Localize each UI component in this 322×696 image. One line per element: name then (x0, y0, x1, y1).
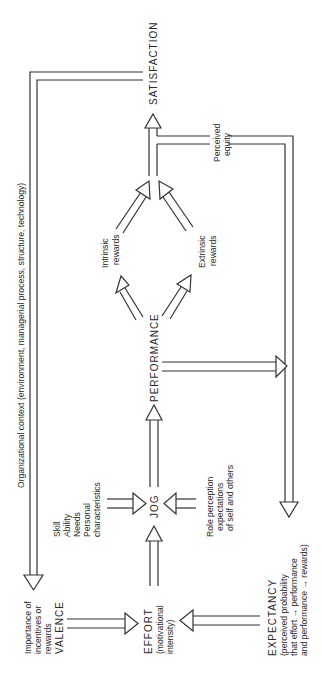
extrinsic-to-satisfaction-arrow (159, 181, 193, 231)
effort-node: EFFORT (motivational intensity) (143, 605, 175, 654)
job-node: JOG (149, 494, 160, 518)
performance-to-expectancy-arrow (162, 356, 287, 377)
effort-line1: (motivational (155, 605, 165, 654)
context-label: Organizational context (environment, man… (16, 183, 26, 488)
abilities-label: Skill Ability Needs Personal characteris… (52, 482, 102, 537)
rewards-to-satisfaction-arrow (145, 114, 161, 176)
intrinsic-to-satisfaction-arrow (116, 181, 150, 233)
intrinsic-rewards-label: Intrinsic rewards (100, 234, 121, 268)
role-line2: expectations (215, 483, 225, 531)
performance-node: PERFORMANCE (149, 313, 160, 402)
expectancy-line2: that effort → performance (289, 558, 299, 656)
equity-line2: equity (222, 132, 232, 156)
role-line1: Role perception (205, 477, 215, 537)
expectancy-title: EXPECTANCY (267, 579, 278, 656)
valence-to-effort-arrow (67, 613, 138, 634)
effort-line2: intensity) (165, 619, 175, 654)
expectancy-node: EXPECTANCY (perceived probability that e… (267, 544, 309, 656)
valence-title: VALENCE (54, 601, 65, 654)
abilities-line4: Personal (82, 503, 92, 537)
equity-to-expectancy-arrow (157, 136, 298, 517)
effort-to-job-arrow (146, 526, 162, 586)
expectancy-line3: and performance → rewards) (299, 544, 309, 656)
valence-line2: incentives or (33, 606, 43, 654)
performance-to-extrinsic-arrow (162, 275, 191, 319)
abilities-line3: Needs (72, 512, 82, 537)
extrinsic-line2: rewards (208, 235, 218, 266)
job-to-performance-arrow (146, 405, 162, 487)
abilities-line1: Skill (52, 521, 62, 537)
valence-line3: rewards (43, 623, 53, 654)
effort-title: EFFORT (143, 608, 154, 654)
valence-node: Importance of incentives or rewards VALE… (23, 601, 65, 654)
equity-line1: Perceived (212, 124, 222, 162)
equity-label: Perceived equity (212, 124, 232, 162)
expectancy-to-effort-arrow (180, 610, 260, 631)
extrinsic-line1: Extrinsic (197, 235, 207, 268)
intrinsic-line2: rewards (111, 234, 121, 265)
extrinsic-rewards-label: Extrinsic rewards (197, 235, 218, 268)
abilities-to-job-arrow (107, 493, 146, 514)
satisfaction-node: SATISFACTION (148, 22, 159, 106)
performance-to-intrinsic-arrow (116, 276, 143, 320)
role-line3: of self and others (225, 465, 235, 531)
abilities-line2: Ability (62, 513, 72, 537)
abilities-line5: characteristics (92, 482, 102, 537)
intrinsic-line1: Intrinsic (100, 238, 110, 268)
role-perception-label: Role perception expectations of self and… (205, 465, 235, 537)
role-to-job-arrow (164, 493, 196, 514)
expectancy-line1: (perceived probability (279, 574, 289, 656)
valence-line1: Importance of (23, 601, 33, 654)
motivation-model-diagram: Organizational context (environment, man… (0, 0, 322, 696)
